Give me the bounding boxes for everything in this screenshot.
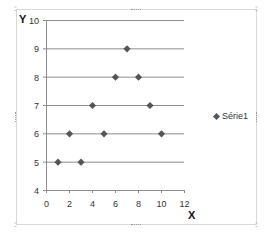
data-point-marker: [123, 45, 130, 52]
x-tick-label: 12: [179, 199, 189, 209]
data-point-marker: [158, 130, 165, 137]
x-tick-label: 0: [44, 199, 49, 209]
y-tick-label: 6: [34, 129, 39, 139]
x-tick-label: 2: [67, 199, 72, 209]
data-point-marker: [89, 102, 96, 109]
x-tick-label: 4: [90, 199, 95, 209]
y-tick-label: 10: [29, 16, 39, 26]
data-point-marker: [146, 102, 153, 109]
x-tick-label: 8: [136, 199, 141, 209]
y-tick-label: 5: [34, 158, 39, 168]
data-point-marker: [66, 130, 73, 137]
x-tick-label: 10: [156, 199, 166, 209]
y-axis-title: Y: [19, 13, 26, 25]
legend[interactable]: Série1: [214, 111, 248, 121]
diamond-marker-icon: [213, 112, 220, 119]
data-point-marker: [77, 159, 84, 166]
x-axis-title: X: [188, 209, 195, 221]
data-point-marker: [100, 130, 107, 137]
y-tick-label: 7: [34, 101, 39, 111]
data-point-marker: [54, 159, 61, 166]
y-tick-label: 8: [34, 73, 39, 83]
x-tick-label: 6: [113, 199, 118, 209]
legend-label: Série1: [222, 111, 248, 121]
y-tick-label: 9: [34, 44, 39, 54]
data-point-marker: [112, 74, 119, 81]
y-tick-label: 4: [34, 186, 39, 196]
data-point-marker: [135, 74, 142, 81]
